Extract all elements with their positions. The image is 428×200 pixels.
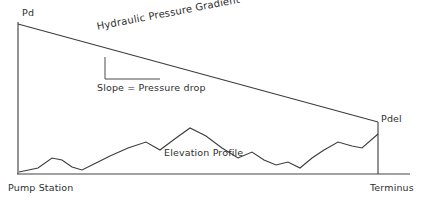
label-elevation-profile: Elevation Profile — [164, 148, 243, 158]
hydraulic-gradient-diagram: Pd Pdel Hydraulic Pressure Gradient Slop… — [0, 0, 428, 200]
diagram-canvas — [0, 0, 428, 200]
label-delivery-pressure: Pdel — [381, 114, 402, 124]
label-terminus: Terminus — [370, 183, 414, 193]
label-slope-pressure-drop: Slope = Pressure drop — [97, 83, 206, 93]
label-pump-station: Pump Station — [8, 183, 73, 193]
hydraulic-pressure-gradient-line — [18, 24, 378, 122]
label-discharge-pressure: Pd — [22, 8, 34, 18]
